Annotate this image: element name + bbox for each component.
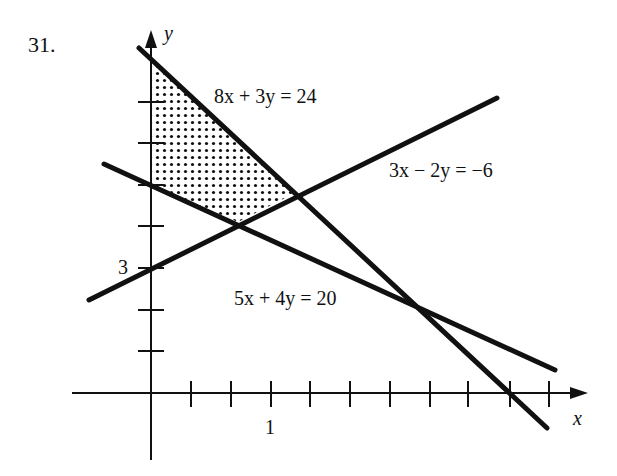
label-3x-2y-neg6: 3x − 2y = −6 <box>389 159 493 182</box>
y-axis-arrow-icon <box>145 30 157 48</box>
problem-number: 31. <box>28 32 56 57</box>
y-axis-label: y <box>162 22 173 45</box>
x-axis-label: x <box>572 407 582 429</box>
x-tick-label: 1 <box>265 416 275 438</box>
x-axis-arrow-icon <box>570 387 588 399</box>
line-5x-4y-20 <box>104 164 555 370</box>
label-5x-4y-20: 5x + 4y = 20 <box>234 287 337 310</box>
y-tick-label: 3 <box>118 256 128 278</box>
label-8x-3y-24: 8x + 3y = 24 <box>214 85 317 108</box>
graph: 31. y x 1 3 8x + 3y = 24 3x − 2y = −6 5x… <box>0 0 617 476</box>
